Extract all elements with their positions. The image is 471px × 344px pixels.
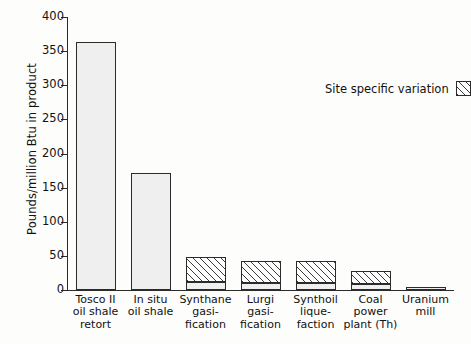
- bar: [186, 257, 226, 290]
- bar: [406, 287, 446, 290]
- bar-segment-variation: [186, 257, 226, 282]
- bar: [351, 271, 391, 290]
- bar: [131, 173, 171, 290]
- bar: [76, 42, 116, 290]
- y-tick-label: 150: [42, 180, 64, 194]
- bar-segment-base: [241, 283, 281, 290]
- y-tick-label: 0: [57, 282, 64, 296]
- y-tick-label: 100: [42, 214, 64, 228]
- bar: [296, 261, 336, 290]
- x-axis-label: Synthoil lique- faction: [288, 294, 343, 331]
- x-axis-label: Synthane gasi- fication: [178, 294, 233, 331]
- x-axis-line: [67, 290, 454, 291]
- bar-segment-base: [351, 284, 391, 290]
- bar-segment-base: [76, 42, 116, 290]
- bar-segment-base: [131, 173, 171, 290]
- legend: Site specific variation: [325, 81, 471, 96]
- legend-label: Site specific variation: [325, 82, 449, 96]
- bar-segment-variation: [296, 261, 336, 284]
- y-tick-label: 350: [42, 43, 64, 57]
- y-tick-label: 300: [42, 77, 64, 91]
- x-axis-label: Coal power plant (Th): [343, 294, 398, 331]
- y-tick-label: 200: [42, 146, 64, 160]
- x-axis-label: Uranium mill: [398, 294, 453, 319]
- bar-segment-variation: [351, 271, 391, 284]
- bar-segment-base: [186, 282, 226, 290]
- plot-area: 050100150200250300350400 Tosco II oil sh…: [68, 17, 453, 290]
- x-axis-label: Lurgi gasi- fication: [233, 294, 288, 331]
- y-tick-label: 250: [42, 111, 64, 125]
- y-tick-label: 400: [42, 9, 64, 23]
- legend-swatch-hatch-icon: [456, 81, 471, 96]
- bar: [241, 261, 281, 290]
- x-axis-label: Tosco II oil shale retort: [68, 294, 123, 331]
- bar-segment-base: [406, 287, 446, 290]
- bar-segment-variation: [241, 261, 281, 284]
- y-axis-title: Pounds/million Btu in product: [25, 39, 39, 259]
- bar-segment-base: [296, 283, 336, 290]
- y-tick-label: 50: [49, 248, 64, 262]
- x-axis-label: In situ oil shale: [123, 294, 178, 319]
